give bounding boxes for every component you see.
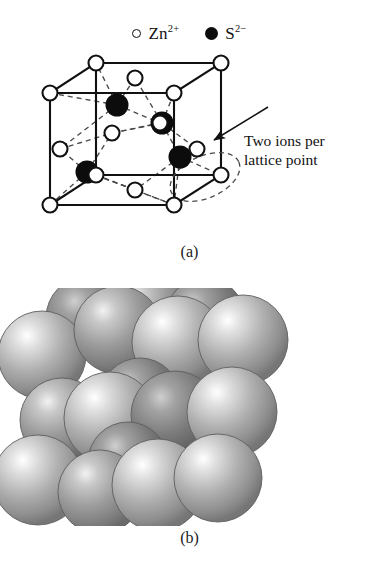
legend-label-sulfur: S2− xyxy=(225,25,246,42)
zinc-ion-face xyxy=(153,116,168,131)
zinc-ion-face xyxy=(190,142,205,157)
open-circle-icon xyxy=(132,29,141,38)
sulfur-ion xyxy=(169,146,192,169)
hard-sphere-model-diagram xyxy=(0,288,379,526)
figure-root: Zn2+ S2− xyxy=(0,0,379,571)
zinc-ion-corner xyxy=(214,168,229,183)
legend-entry-sulfur: S2− xyxy=(205,25,246,42)
sphere xyxy=(174,434,262,522)
zinc-ion-corner xyxy=(167,86,182,101)
annotation-line-1: Two ions per xyxy=(244,132,378,151)
legend-charge-sulfur: 2− xyxy=(235,23,247,34)
legend-label-zinc: Zn2+ xyxy=(148,25,179,42)
panel-a-unit-cell: Two ions per lattice point xyxy=(0,52,379,234)
filled-circle-icon xyxy=(205,27,218,40)
zinc-ion-corner xyxy=(167,198,182,213)
zinc-ion-face xyxy=(128,183,143,198)
sphere-layer-bottom xyxy=(0,434,262,526)
sulfur-ion xyxy=(106,94,129,117)
zinc-ion-face xyxy=(128,71,143,86)
legend: Zn2+ S2− xyxy=(0,18,379,48)
legend-symbol-sulfur: S xyxy=(225,24,235,43)
zinc-ion-corner xyxy=(43,198,58,213)
legend-symbol-zinc: Zn xyxy=(148,24,167,43)
zinc-ion-corner xyxy=(43,86,58,101)
legend-charge-zinc: 2+ xyxy=(168,23,180,34)
panel-b-caption: (b) xyxy=(0,529,379,547)
zinc-ion-corner xyxy=(89,168,104,183)
annotation-line-2: lattice point xyxy=(244,151,378,170)
zinc-ion-face xyxy=(105,126,120,141)
zinc-ion-face xyxy=(53,142,68,157)
panel-a-caption: (a) xyxy=(0,243,379,261)
legend-entry-zinc: Zn2+ xyxy=(132,25,179,42)
zinc-ion-corner xyxy=(89,56,104,71)
annotation-two-ions-per-lattice-point: Two ions per lattice point xyxy=(244,132,378,170)
zinc-ion-corner xyxy=(214,56,229,71)
panel-b-sphere-model xyxy=(0,288,379,526)
